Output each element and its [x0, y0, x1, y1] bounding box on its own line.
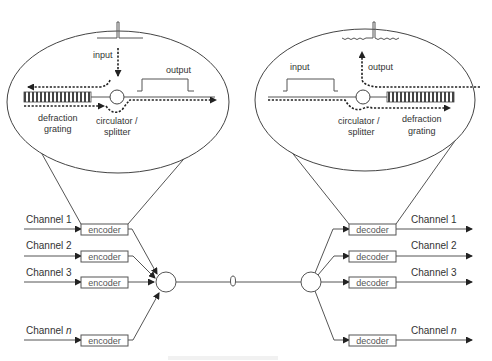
- grating-label: defraction: [402, 114, 442, 124]
- channel-label: Channel 3: [26, 267, 72, 278]
- circulator-label: splitter: [104, 127, 131, 137]
- combiner-icon: [156, 272, 176, 292]
- channel-label: Channel 2: [411, 240, 457, 251]
- ocdma-diagram: input output defraction grating circulat…: [0, 0, 492, 361]
- channel-label: Channel 1: [26, 214, 72, 225]
- input-label: input: [290, 62, 310, 72]
- circulator-icon: [110, 90, 124, 104]
- svg-text:encoder: encoder: [88, 336, 121, 346]
- circulator-label: splitter: [348, 127, 375, 137]
- fiber-coil-icon: [231, 276, 236, 286]
- output-label: output: [166, 65, 192, 75]
- svg-text:encoder: encoder: [88, 278, 121, 288]
- svg-text:decoder: decoder: [356, 225, 389, 235]
- channel-label: Channel 1: [411, 214, 457, 225]
- circulator-icon: [356, 90, 370, 104]
- caption-faded: [168, 356, 278, 360]
- decoder-bank: decoder Channel 1 decoder Channel 2 deco…: [315, 214, 472, 346]
- grating-label: defraction: [38, 113, 78, 123]
- encoder-bank: Channel 1 encoder Channel 2 encoder Chan…: [24, 214, 159, 346]
- svg-text:decoder: decoder: [356, 278, 389, 288]
- grating-icon: [387, 92, 454, 102]
- grating-label: grating: [408, 126, 436, 136]
- output-label: output: [368, 62, 394, 72]
- channel-label: Channel n: [411, 325, 457, 336]
- grating-label: grating: [44, 124, 72, 134]
- channel-label: Channel 3: [411, 267, 457, 278]
- svg-text:encoder: encoder: [88, 225, 121, 235]
- grating-icon: [24, 92, 91, 102]
- circulator-label: circulator /: [96, 116, 138, 126]
- encoder-zoom-ellipse: input output defraction grating circulat…: [7, 22, 229, 224]
- channel-label: Channel 2: [26, 240, 72, 251]
- input-label: input: [93, 50, 113, 60]
- circulator-label: circulator /: [338, 116, 380, 126]
- svg-text:encoder: encoder: [88, 252, 121, 262]
- svg-text:decoder: decoder: [356, 252, 389, 262]
- svg-text:decoder: decoder: [356, 336, 389, 346]
- decoder-zoom-ellipse: output input circulator / splitter defra…: [255, 22, 480, 224]
- channel-label: Channel n: [26, 325, 72, 336]
